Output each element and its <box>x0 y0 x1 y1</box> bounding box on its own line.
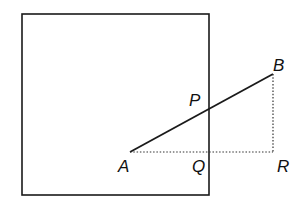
label-point-b: B <box>273 56 284 75</box>
label-point-a: A <box>117 157 129 176</box>
segment-ab <box>130 74 273 152</box>
geometry-diagram: A B P Q R <box>0 0 306 203</box>
label-point-r: R <box>277 157 289 176</box>
square <box>22 14 209 195</box>
label-point-p: P <box>189 91 201 110</box>
label-point-q: Q <box>192 157 205 176</box>
